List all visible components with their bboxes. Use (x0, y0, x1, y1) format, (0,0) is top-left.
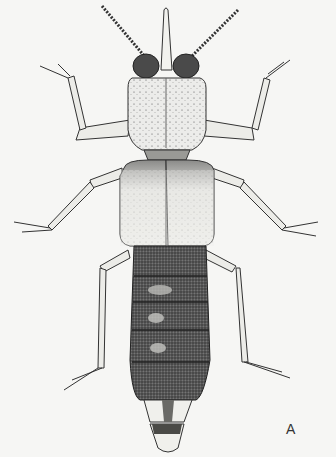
panel-label: A (286, 421, 295, 437)
abdomen (130, 246, 210, 400)
beetle-illustration (0, 0, 336, 457)
horn (161, 8, 172, 70)
pronotum (128, 78, 206, 150)
antenna-right (190, 10, 238, 58)
antenna-left (102, 6, 146, 58)
